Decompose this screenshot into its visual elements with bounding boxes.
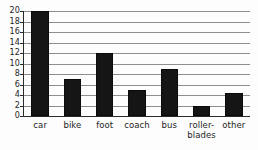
y-axis-tick-label: 16 <box>0 28 20 36</box>
y-axis-tick-label: 6 <box>0 81 20 89</box>
bar-chart: 02468101214161820 carbikefootcoachbusrol… <box>0 0 258 150</box>
y-axis-tick <box>20 11 23 12</box>
gridline <box>24 53 250 54</box>
y-axis-tick-label: 0 <box>0 112 20 120</box>
bar <box>31 11 48 116</box>
gridline <box>24 32 250 33</box>
y-axis-tick <box>20 43 23 44</box>
y-axis-tick <box>20 106 23 107</box>
y-axis-tick <box>20 85 23 86</box>
y-axis-tick-label: 8 <box>0 70 20 78</box>
gridline <box>24 22 250 23</box>
y-axis-tick-label: 14 <box>0 39 20 47</box>
gridline <box>24 74 250 75</box>
bar <box>128 90 145 116</box>
plot-area <box>24 11 250 116</box>
y-axis-tick-label: 12 <box>0 49 20 57</box>
x-axis-category-label: other <box>212 121 256 131</box>
y-axis-tick-label: 4 <box>0 91 20 99</box>
y-axis-tick <box>20 53 23 54</box>
y-axis-tick-label: 18 <box>0 18 20 26</box>
y-axis-tick <box>20 95 23 96</box>
bar <box>193 106 210 117</box>
bar <box>64 79 81 116</box>
axis-baseline <box>24 116 250 117</box>
bar <box>225 93 242 116</box>
gridline <box>24 43 250 44</box>
y-axis-tick <box>20 116 23 117</box>
bar <box>96 53 113 116</box>
gridline <box>24 64 250 65</box>
y-axis-tick-label: 20 <box>0 7 20 15</box>
gridline <box>24 11 250 12</box>
y-axis-tick <box>20 64 23 65</box>
gridline <box>24 85 250 86</box>
y-axis-tick <box>20 32 23 33</box>
y-axis-tick <box>20 22 23 23</box>
y-axis-tick <box>20 74 23 75</box>
bar <box>161 69 178 116</box>
y-axis-tick-label: 10 <box>0 60 20 68</box>
y-axis-tick-label: 2 <box>0 102 20 110</box>
